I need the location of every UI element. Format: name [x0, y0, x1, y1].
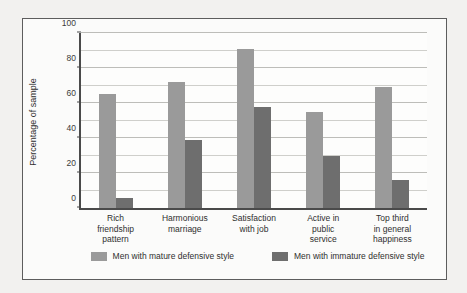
x-axis-label: Active in public service [307, 213, 339, 245]
legend-item[interactable]: Men with immature defensive style [272, 251, 424, 261]
plot-area: 020406080100 Rich friendship patternHarm… [79, 33, 427, 210]
y-tick-label: 100 [62, 18, 76, 28]
y-tick-label: 40 [67, 123, 76, 133]
x-axis-label: Satisfaction with job [232, 213, 276, 234]
y-tick-label: 0 [71, 193, 76, 203]
bar-group: Rich friendship pattern [81, 33, 150, 208]
bar-mature[interactable] [375, 87, 392, 208]
bar-group: Top third in general happiness [358, 33, 427, 208]
bar-group: Satisfaction with job [219, 33, 288, 208]
legend-label: Men with mature defensive style [113, 251, 234, 261]
bar-immature[interactable] [323, 156, 340, 209]
y-tick-label: 20 [67, 158, 76, 168]
bar-mature[interactable] [99, 94, 116, 208]
chart-legend: Men with mature defensive styleMen with … [79, 251, 436, 261]
x-axis-label: Top third in general happiness [373, 213, 412, 245]
bar-mature[interactable] [237, 49, 254, 208]
y-tick-label: 60 [67, 88, 76, 98]
chart-figure-frame: Percentage of sample 020406080100 Rich f… [22, 18, 447, 280]
bar-immature[interactable] [254, 107, 271, 209]
bar-mature[interactable] [168, 82, 185, 208]
x-axis-label: Harmonious marriage [162, 213, 208, 234]
legend-swatch-icon [91, 252, 107, 261]
bar-groups: Rich friendship patternHarmonious marria… [81, 33, 427, 208]
bar-immature[interactable] [392, 180, 409, 208]
bar-group: Active in public service [289, 33, 358, 208]
x-axis-label: Rich friendship pattern [97, 213, 134, 245]
bar-immature[interactable] [116, 198, 133, 209]
y-tick-label: 80 [67, 53, 76, 63]
y-axis-title: Percentage of sample [28, 78, 38, 166]
legend-label: Men with immature defensive style [294, 251, 424, 261]
bar-mature[interactable] [306, 112, 323, 208]
bar-immature[interactable] [185, 140, 202, 208]
legend-item[interactable]: Men with mature defensive style [91, 251, 234, 261]
bar-group: Harmonious marriage [150, 33, 219, 208]
legend-swatch-icon [272, 252, 288, 261]
